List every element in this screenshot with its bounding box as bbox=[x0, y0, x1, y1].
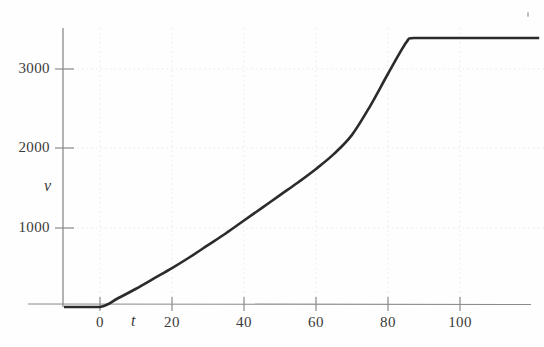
y-tick-label-3000: 3000 bbox=[14, 60, 50, 77]
x-tick-label-100: 100 bbox=[444, 314, 476, 331]
plot-canvas bbox=[0, 0, 544, 347]
x-axis-line bbox=[28, 304, 531, 305]
x-axis-label: t bbox=[131, 312, 135, 330]
y-axis-ticks bbox=[55, 69, 74, 228]
velocity-curve bbox=[64, 38, 539, 307]
x-tick-label-40: 40 bbox=[230, 314, 258, 331]
scan-speck-artifact bbox=[527, 12, 529, 17]
gridlines bbox=[63, 28, 544, 304]
x-tick-label-60: 60 bbox=[302, 314, 330, 331]
x-tick-label-0: 0 bbox=[86, 314, 114, 331]
x-tick-label-80: 80 bbox=[374, 314, 402, 331]
y-tick-label-2000: 2000 bbox=[14, 139, 50, 156]
y-axis-label: v bbox=[44, 177, 51, 195]
y-tick-label-1000: 1000 bbox=[14, 219, 50, 236]
x-tick-label-20: 20 bbox=[158, 314, 186, 331]
velocity-time-figure: 3000 2000 1000 0 20 40 60 80 100 v t bbox=[0, 0, 544, 347]
